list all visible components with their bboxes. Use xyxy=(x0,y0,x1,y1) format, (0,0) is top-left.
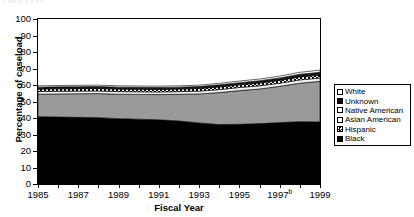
x-tick-label: 1999 xyxy=(300,189,340,200)
legend-swatch-icon xyxy=(337,136,343,142)
legend-swatch-icon xyxy=(337,117,343,123)
stacked-area-chart: 1985-1999 Percentage of caseload 0102030… xyxy=(0,0,414,217)
legend-label: Asian American xyxy=(345,115,401,124)
y-tick-label: 60 xyxy=(7,80,31,89)
x-tick-label: 1993 xyxy=(179,189,219,200)
y-axis-labels: 0102030405060708090100 xyxy=(0,0,31,217)
plot-border-top xyxy=(37,18,321,19)
legend-item-unknown[interactable]: Unknown xyxy=(337,96,409,105)
x-tick-mark xyxy=(300,184,301,188)
y-tick-label: 50 xyxy=(7,97,31,106)
x-tick-mark xyxy=(219,184,220,188)
legend-label: Black xyxy=(345,134,365,143)
y-tick-mark xyxy=(33,151,38,152)
x-tick-mark xyxy=(38,184,39,188)
legend-item-asian-american[interactable]: Asian American xyxy=(337,115,409,124)
y-tick-label: 10 xyxy=(7,163,31,172)
y-tick-label: 80 xyxy=(7,47,31,56)
x-tick-mark xyxy=(58,184,59,188)
area-series-svg xyxy=(38,19,320,184)
x-tick-mark xyxy=(280,184,281,188)
legend-swatch-icon xyxy=(337,89,343,95)
legend-item-black[interactable]: Black xyxy=(337,134,409,143)
legend-swatch-icon xyxy=(337,98,343,104)
x-tick-mark xyxy=(119,184,120,188)
y-tick-label: 30 xyxy=(7,130,31,139)
x-tick-mark xyxy=(199,184,200,188)
legend-label: Native American xyxy=(345,106,403,115)
y-tick-label: 40 xyxy=(7,113,31,122)
plot-border-right xyxy=(320,18,321,185)
x-tick-mark xyxy=(260,184,261,188)
y-tick-mark xyxy=(33,135,38,136)
y-tick-mark xyxy=(33,184,38,185)
x-tick-mark xyxy=(78,184,79,188)
legend-item-hispanic[interactable]: Hispanic xyxy=(337,125,409,134)
x-tick-mark xyxy=(139,184,140,188)
x-tick-mark xyxy=(98,184,99,188)
x-tick-mark xyxy=(179,184,180,188)
legend-label: Unknown xyxy=(345,97,378,106)
y-tick-mark xyxy=(33,118,38,119)
y-tick-mark xyxy=(33,36,38,37)
y-tick-mark xyxy=(33,52,38,53)
x-tick-mark xyxy=(320,184,321,188)
chart-legend: WhiteUnknownNative AmericanAsian America… xyxy=(334,84,411,146)
x-axis-title: Fiscal Year xyxy=(38,202,320,213)
x-tick-mark xyxy=(239,184,240,188)
y-tick-mark xyxy=(33,19,38,20)
y-tick-label: 0 xyxy=(7,179,31,188)
plot-area xyxy=(38,19,320,184)
legend-item-white[interactable]: White xyxy=(337,87,409,96)
legend-label: Hispanic xyxy=(345,125,376,134)
x-tick-label: 1989 xyxy=(99,189,139,200)
x-tick-label: 1997b xyxy=(260,189,300,200)
x-tick-label: 1987 xyxy=(58,189,98,200)
x-tick-mark xyxy=(159,184,160,188)
y-tick-label: 90 xyxy=(7,31,31,40)
y-tick-mark xyxy=(33,168,38,169)
y-tick-label: 100 xyxy=(7,14,31,23)
x-tick-label: 1995 xyxy=(219,189,259,200)
y-tick-label: 20 xyxy=(7,146,31,155)
legend-label: White xyxy=(345,87,365,96)
y-tick-label: 70 xyxy=(7,64,31,73)
legend-item-native-american[interactable]: Native American xyxy=(337,106,409,115)
y-tick-mark xyxy=(33,85,38,86)
x-tick-label: 1991 xyxy=(139,189,179,200)
y-tick-mark xyxy=(33,69,38,70)
y-tick-mark xyxy=(33,102,38,103)
x-tick-label: 1985 xyxy=(18,189,58,200)
area-series-black xyxy=(38,117,320,184)
legend-swatch-icon xyxy=(337,107,343,113)
legend-swatch-icon xyxy=(337,126,343,132)
